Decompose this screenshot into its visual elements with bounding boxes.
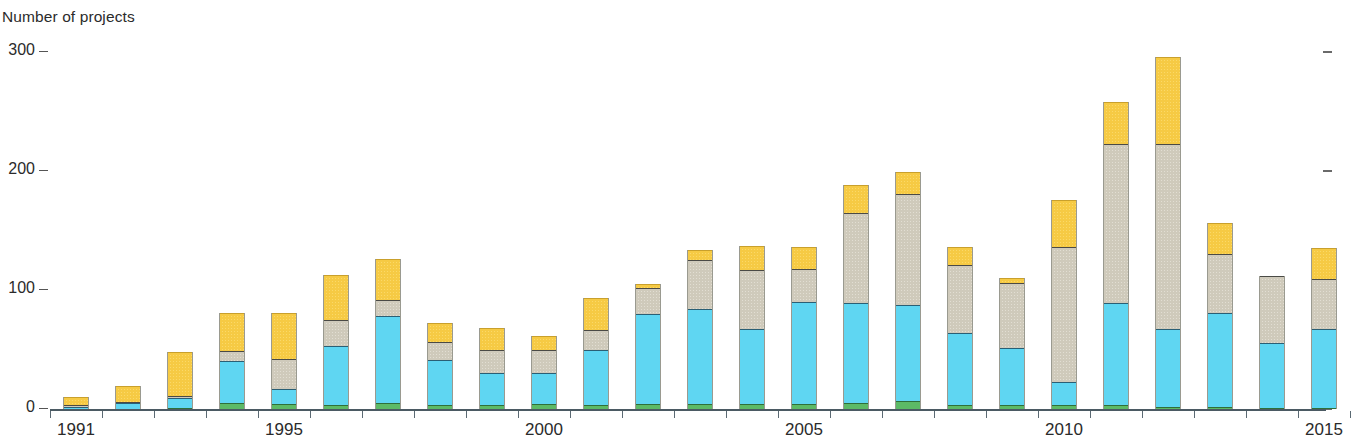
x-axis-tick-mark — [830, 411, 831, 418]
bar-segment-cyan — [531, 373, 557, 404]
bar-segment-cyan — [583, 350, 609, 406]
bar-segment-yellow — [167, 352, 193, 396]
bar-segment-gray — [947, 265, 973, 333]
y-axis-title: Number of projects — [2, 8, 135, 26]
x-axis-tick-label: 1991 — [57, 420, 95, 440]
bar-segment-cyan — [219, 361, 245, 403]
x-axis-tick-mark — [154, 411, 155, 418]
x-axis-tick-mark — [1298, 411, 1299, 418]
bar-segment-yellow — [1207, 223, 1233, 254]
bar-stack — [167, 352, 193, 409]
bar-segment-gray — [895, 194, 921, 306]
x-axis-tick-mark — [206, 411, 207, 418]
bar-segment-yellow — [479, 328, 505, 349]
y-axis-tick-value: 200 — [8, 160, 35, 178]
bar-segment-cyan — [999, 348, 1025, 405]
bar-segment-cyan — [635, 314, 661, 404]
y-axis-tick-mark — [39, 289, 48, 290]
bar-segment-cyan — [1311, 329, 1337, 408]
x-axis-tick-mark — [310, 411, 311, 418]
bar-stack — [427, 323, 453, 409]
y-axis-tick-mark — [39, 408, 48, 409]
bar-segment-gray — [1103, 144, 1129, 303]
x-axis-tick-label: 1995 — [265, 420, 303, 440]
bar-stack — [1051, 200, 1077, 409]
x-axis-tick-mark — [102, 411, 103, 418]
bar-stack — [895, 172, 921, 409]
bar-segment-yellow — [219, 313, 245, 351]
bar-segment-gray — [427, 342, 453, 360]
y-axis-tick-value: 300 — [8, 41, 35, 59]
bar-segment-yellow — [271, 313, 297, 359]
x-axis-tick-mark — [726, 411, 727, 418]
bar-stack — [583, 298, 609, 409]
bar-segment-gray — [739, 270, 765, 330]
bar-stack — [1207, 223, 1233, 409]
bar-segment-yellow — [843, 185, 869, 212]
bar-segment-cyan — [271, 389, 297, 404]
bar-stack — [1103, 102, 1129, 409]
bar-segment-yellow — [583, 298, 609, 330]
bar-stack — [375, 259, 401, 409]
x-axis-line — [50, 409, 1326, 411]
bar-segment-yellow — [531, 336, 557, 349]
bar-segment-gray — [583, 330, 609, 349]
bar-segment-yellow — [323, 275, 349, 320]
x-axis-tick-mark — [1090, 411, 1091, 418]
x-axis-tick-mark — [258, 411, 259, 418]
bar-segment-gray — [1207, 254, 1233, 312]
bar-segment-gray — [1051, 247, 1077, 381]
x-axis-tick-mark — [414, 411, 415, 418]
x-axis-tick-mark — [518, 411, 519, 418]
bar-segment-cyan — [791, 302, 817, 404]
bar-segment-yellow — [1103, 102, 1129, 144]
bar-segment-green — [895, 401, 921, 409]
x-axis-tick-label: 2015 — [1305, 420, 1343, 440]
bar-segment-cyan — [1155, 329, 1181, 406]
x-axis-tick-mark — [882, 411, 883, 418]
bar-stack — [271, 313, 297, 409]
bar-segment-gray — [271, 359, 297, 389]
y-axis-tick-value: 0 — [26, 398, 35, 416]
bar-stack — [999, 278, 1025, 409]
bar-segment-cyan — [323, 346, 349, 406]
bar-segment-gray — [1311, 279, 1337, 329]
x-axis-tick-label: 2000 — [525, 420, 563, 440]
bar-segment-yellow — [1155, 57, 1181, 144]
bar-segment-cyan — [375, 316, 401, 403]
bar-segment-cyan — [895, 305, 921, 400]
bar-segment-yellow — [115, 386, 141, 401]
bar-stack — [947, 247, 973, 409]
bar-segment-yellow — [947, 247, 973, 265]
bar-stack — [219, 313, 245, 409]
x-axis-tick-mark — [362, 411, 363, 418]
bar-segment-yellow — [739, 246, 765, 270]
bar-stack — [531, 336, 557, 409]
bar-stack — [479, 328, 505, 409]
x-axis-tick-mark — [50, 411, 51, 418]
bar-segment-cyan — [1103, 303, 1129, 405]
bar-segment-gray — [479, 350, 505, 374]
bar-segment-gray — [687, 260, 713, 309]
y-axis-tick-label: 300 — [0, 41, 48, 59]
bar-stack — [1155, 57, 1181, 409]
x-axis-tick-mark — [674, 411, 675, 418]
bar-segment-yellow — [895, 172, 921, 193]
bar-segment-yellow — [427, 323, 453, 342]
bar-segment-cyan — [427, 360, 453, 405]
bar-stack — [791, 247, 817, 409]
bar-segment-gray — [843, 213, 869, 303]
bar-segment-cyan — [687, 309, 713, 404]
bar-segment-cyan — [167, 398, 193, 408]
bar-segment-cyan — [739, 329, 765, 404]
bar-segment-cyan — [1259, 343, 1285, 407]
bar-segment-yellow — [1051, 200, 1077, 248]
bar-segment-yellow — [687, 250, 713, 261]
x-axis-tick-mark — [570, 411, 571, 418]
bar-segment-gray — [375, 300, 401, 317]
y-axis-tick-label: 0 — [0, 398, 48, 416]
bar-segment-gray — [1155, 144, 1181, 330]
bar-segment-gray — [219, 351, 245, 362]
x-axis-tick-mark — [1246, 411, 1247, 418]
